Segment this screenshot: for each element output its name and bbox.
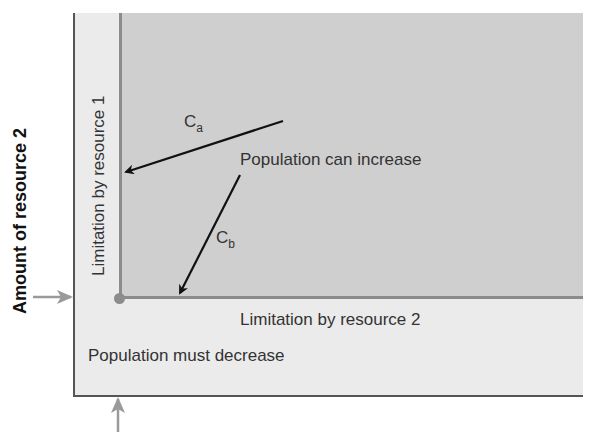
arrows-layer [0,0,597,437]
vector-ca-arrow [126,121,283,172]
vector-cb-arrow [180,175,240,293]
